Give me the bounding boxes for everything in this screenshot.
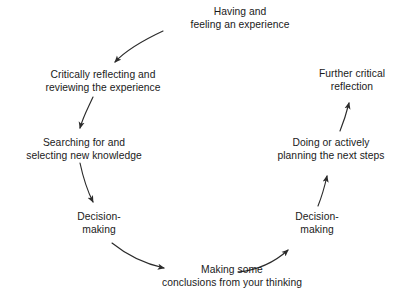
node-label-line1: Further critical — [319, 68, 385, 81]
node-further-reflection: Further criticalreflection — [319, 68, 385, 93]
arrow-doing-to-further-reflection — [340, 103, 349, 131]
node-label-line1: Critically reflecting and — [45, 69, 160, 82]
node-making-conclusions: Making someconclusions from your thinkin… — [162, 264, 302, 289]
node-label-line2: making — [77, 224, 120, 237]
node-having-experience: Having andfeeling an experience — [191, 6, 290, 31]
node-label-line1: Decision- — [295, 211, 338, 224]
node-doing-planning: Doing or activelyplanning the next steps — [277, 137, 384, 162]
arrow-decision-right-to-doing — [318, 176, 327, 206]
node-label-line2: conclusions from your thinking — [162, 277, 302, 290]
node-decision-making-right: Decision-making — [295, 211, 338, 236]
node-label-line1: Having and — [191, 6, 290, 19]
reflective-cycle-diagram: Having andfeeling an experienceCriticall… — [0, 0, 416, 305]
node-label-line1: Making some — [162, 264, 302, 277]
node-label-line2: feeling an experience — [191, 19, 290, 32]
node-label-line1: Decision- — [77, 211, 120, 224]
node-label-line1: Searching for and — [26, 137, 142, 150]
arrow-experience-to-reflecting — [115, 31, 163, 62]
node-label-line2: selecting new knowledge — [26, 150, 142, 163]
arrow-reflecting-to-searching — [80, 97, 93, 128]
node-label-line2: planning the next steps — [277, 150, 384, 163]
arrow-searching-to-decision-left — [80, 163, 93, 202]
node-label-line1: Doing or actively — [277, 137, 384, 150]
node-label-line2: reviewing the experience — [45, 82, 160, 95]
node-label-line2: reflection — [319, 81, 385, 94]
arrow-decision-left-to-conclusions — [112, 243, 164, 268]
node-searching-selecting: Searching for andselecting new knowledge — [26, 137, 142, 162]
node-critically-reflecting: Critically reflecting andreviewing the e… — [45, 69, 160, 94]
node-decision-making-left: Decision-making — [77, 211, 120, 236]
node-label-line2: making — [295, 224, 338, 237]
